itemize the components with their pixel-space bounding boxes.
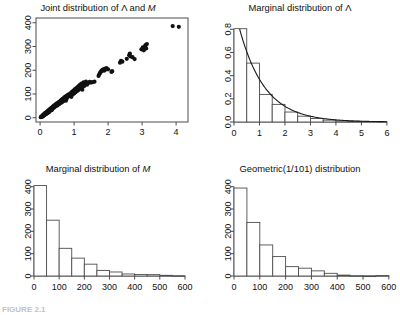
svg-text:600: 600: [177, 282, 192, 292]
svg-text:0: 0: [23, 273, 33, 278]
svg-text:300: 300: [23, 39, 33, 54]
svg-text:200: 200: [77, 282, 92, 292]
svg-text:2: 2: [282, 128, 287, 138]
svg-text:100: 100: [52, 282, 67, 292]
svg-text:100: 100: [23, 86, 33, 101]
svg-text:200: 200: [23, 224, 33, 239]
svg-text:300: 300: [223, 202, 233, 217]
marginal-lambda-histogram: 01234560.00.20.40.60.8: [200, 0, 400, 158]
svg-text:100: 100: [223, 246, 233, 261]
svg-text:200: 200: [223, 224, 233, 239]
joint-scatter-plot: 012340100200300400: [0, 0, 196, 158]
svg-text:0: 0: [31, 282, 36, 292]
panel-marginal-m: Marginal distribution of M 0100200300400…: [0, 160, 196, 310]
panel-joint-distribution: Joint distribution of Λ and M 0123401002…: [0, 0, 196, 158]
svg-text:3: 3: [140, 127, 145, 137]
svg-text:0: 0: [231, 282, 236, 292]
svg-text:400: 400: [127, 282, 142, 292]
figure-caption-fragment: FIGURE 2.1: [2, 306, 46, 314]
svg-text:0: 0: [23, 115, 33, 120]
svg-text:1: 1: [257, 128, 262, 138]
svg-text:1: 1: [72, 127, 77, 137]
svg-text:0.4: 0.4: [223, 69, 233, 82]
figure-panel-grid: Joint distribution of Λ and M 0123401002…: [0, 0, 400, 315]
svg-text:400: 400: [330, 282, 345, 292]
svg-text:300: 300: [304, 282, 319, 292]
svg-text:0: 0: [223, 273, 233, 278]
svg-text:300: 300: [102, 282, 117, 292]
figure-caption-strip: FIGURE 2.1: [0, 306, 400, 315]
svg-text:0.0: 0.0: [223, 116, 233, 129]
svg-text:200: 200: [278, 282, 293, 292]
svg-text:2: 2: [106, 127, 111, 137]
svg-text:600: 600: [381, 282, 396, 292]
svg-text:5: 5: [359, 128, 364, 138]
marginal-m-histogram: 01002003004005006000100200300400: [0, 160, 196, 310]
svg-text:4: 4: [174, 127, 179, 137]
geometric-histogram: 01002003004005006000100200300400: [200, 160, 400, 310]
svg-text:0.2: 0.2: [223, 93, 233, 106]
svg-text:0.6: 0.6: [223, 46, 233, 59]
svg-text:300: 300: [23, 202, 33, 217]
svg-text:3: 3: [308, 128, 313, 138]
svg-text:500: 500: [152, 282, 167, 292]
svg-text:500: 500: [356, 282, 371, 292]
svg-text:6: 6: [384, 128, 389, 138]
panel-marginal-lambda: Marginal distribution of Λ 01234560.00.2…: [200, 0, 400, 158]
svg-text:100: 100: [252, 282, 267, 292]
svg-text:0: 0: [38, 127, 43, 137]
svg-text:200: 200: [23, 63, 33, 78]
svg-text:0.8: 0.8: [223, 23, 233, 36]
svg-text:400: 400: [223, 179, 233, 194]
panel-geometric: Geometric(1/101) distribution 0100200300…: [200, 160, 400, 310]
svg-text:400: 400: [23, 179, 33, 194]
svg-text:100: 100: [23, 246, 33, 261]
svg-text:4: 4: [333, 128, 338, 138]
svg-text:400: 400: [23, 15, 33, 30]
